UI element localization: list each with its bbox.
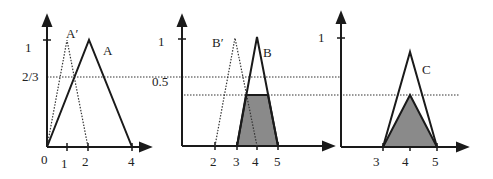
label-a: A [103, 43, 113, 58]
label-b-prime: B′ [212, 35, 224, 50]
x-label: 3 [373, 154, 380, 169]
panel-c: 1 C 3 4 5 [318, 13, 467, 169]
y-label-1: 1 [318, 30, 325, 45]
x-label: 2 [210, 154, 217, 169]
label-b: B [263, 45, 272, 60]
y-label-half: 0.5 [152, 74, 168, 89]
y-label-two-thirds: 2/3 [22, 69, 39, 84]
x-label: 2 [82, 154, 89, 169]
label-a-prime: A′ [66, 26, 78, 41]
x-label: 4 [402, 154, 409, 169]
x-label: 0 [41, 152, 48, 167]
label-c: C [422, 62, 431, 77]
y-label-1: 1 [25, 40, 32, 55]
x-label: 1 [61, 156, 68, 171]
x-label: 5 [274, 154, 281, 169]
x-label: 4 [128, 154, 135, 169]
clipped-b-shaded [237, 95, 278, 146]
x-label: 3 [233, 154, 240, 169]
y-label-1: 1 [158, 34, 165, 49]
x-label: 5 [432, 154, 439, 169]
panel-b: 1 0.5 B′ B 2 3 4 5 [152, 16, 333, 169]
fuzzy-inference-figure: 1 2/3 A′ A 0 1 2 4 1 0.5 B′ B 2 3 4 5 [0, 0, 493, 179]
panel-a: 1 2/3 A′ A 0 1 2 4 [22, 16, 150, 171]
x-label: 4 [252, 154, 259, 169]
set-a-triangle [47, 40, 132, 147]
